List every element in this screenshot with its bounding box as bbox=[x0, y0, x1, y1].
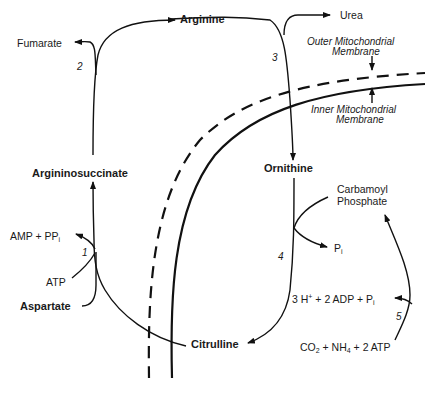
step-number-1: 1 bbox=[82, 247, 88, 258]
label-carbamoyl-phosphate-2: Phosphate bbox=[337, 195, 387, 207]
step-number-5: 5 bbox=[396, 311, 402, 322]
label-citrulline: Citrulline bbox=[191, 338, 239, 350]
step4-carbamoyl-input bbox=[294, 197, 328, 228]
inner-membrane-solid bbox=[171, 84, 425, 378]
step4-arrow-ornithine-to-citrulline bbox=[248, 178, 294, 343]
label-arginine: Arginine bbox=[180, 13, 225, 25]
label-step5-products: 3 H+ + 2 ADP + Pi bbox=[292, 293, 375, 306]
label-carbamoyl-phosphate-1: Carbamoyl bbox=[337, 183, 388, 195]
step-number-2: 2 bbox=[76, 61, 83, 72]
step4-arrow-to-pi bbox=[294, 228, 327, 247]
label-fumarate: Fumarate bbox=[17, 37, 62, 49]
label-outer-membrane-2: Membrane bbox=[332, 46, 380, 57]
label-ornithine: Ornithine bbox=[264, 162, 313, 174]
label-urea: Urea bbox=[340, 9, 363, 21]
label-pi: Pi bbox=[334, 242, 343, 255]
label-argininosuccinate: Argininosuccinate bbox=[32, 167, 128, 179]
step1-aspartate-input bbox=[82, 252, 96, 306]
step2-arrow-to-arginine bbox=[93, 20, 175, 155]
label-step5-substrates: CO2 + NH4 + 2 ATP bbox=[300, 341, 391, 354]
step-number-3: 3 bbox=[272, 52, 278, 63]
step3-arrow-to-urea bbox=[284, 15, 330, 35]
step-number-4: 4 bbox=[278, 251, 284, 262]
urea-cycle-diagram: Arginine Urea Fumarate Argininosuccinate… bbox=[0, 0, 434, 393]
label-atp: ATP bbox=[46, 276, 66, 288]
label-aspartate: Aspartate bbox=[20, 300, 71, 312]
label-amp-ppi: AMP + PPi bbox=[10, 230, 61, 243]
label-inner-membrane-2: Membrane bbox=[336, 114, 384, 125]
